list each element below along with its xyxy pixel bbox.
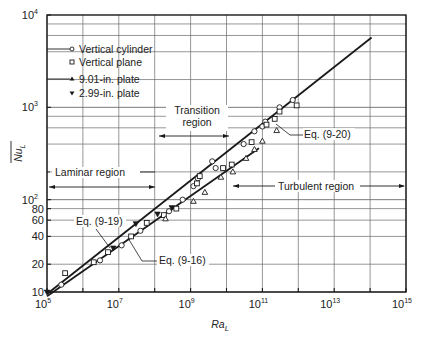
y-tick-label: 104	[22, 8, 38, 21]
svg-text:NuL: NuL	[12, 144, 27, 162]
data-point-square	[229, 162, 234, 167]
data-point-square	[106, 250, 111, 255]
y-tick-label: 103	[22, 100, 38, 113]
x-tick-label: 107	[107, 297, 123, 310]
transition-region-annotation: Transition region	[159, 104, 229, 138]
legend-label-9in-plate: 9.01-in. plate	[79, 73, 140, 85]
data-point-square	[174, 206, 179, 211]
data-point-square	[272, 116, 277, 121]
x-axis-ticks: 105107109101110131015	[35, 288, 412, 310]
x-tick-label: 109	[179, 297, 195, 310]
data-point-circle	[97, 258, 102, 263]
data-point-square	[277, 109, 282, 114]
x-axis-label: RaL	[211, 318, 229, 333]
svg-text:Eq. (9-19): Eq. (9-19)	[76, 215, 123, 227]
x-tick-label: 105	[35, 297, 51, 310]
x-tick-label: 1013	[320, 297, 340, 310]
data-point-square	[63, 271, 68, 276]
eq-9-16-label: Eq. (9-16)	[128, 238, 209, 266]
data-point-triangle-up	[202, 189, 208, 194]
data-point-circle	[180, 197, 185, 202]
nusselt-rayleigh-chart: 105107109101110131015 102040608010210310…	[0, 0, 431, 341]
data-point-circle	[210, 159, 215, 164]
legend-label-vertical-cylinder: Vertical cylinder	[79, 43, 153, 55]
legend-circle-icon	[70, 47, 74, 51]
legend-square-icon	[70, 60, 74, 64]
data-point-square	[129, 234, 134, 239]
y-tick-label: 40	[32, 230, 44, 242]
data-point-circle	[290, 97, 295, 102]
turbulent-region-annotation: Turbulent region	[233, 180, 405, 192]
data-point-square	[91, 260, 96, 265]
legend-label-vertical-plane: Vertical plane	[79, 56, 142, 68]
legend-triangle-up-icon	[70, 77, 75, 81]
data-point-circle	[119, 243, 124, 248]
eq-9-19-label: Eq. (9-19)	[74, 215, 126, 248]
svg-text:Eq. (9-20): Eq. (9-20)	[304, 128, 351, 140]
legend-label-3in-plate: 2.99-in. plate	[79, 87, 140, 99]
y-tick-label: 60	[32, 214, 44, 226]
data-point-circle	[241, 141, 246, 146]
data-point-circle	[138, 228, 143, 233]
y-axis-label: NuL	[11, 141, 27, 163]
data-point-square	[294, 103, 299, 108]
data-point-triangle-up	[260, 138, 266, 143]
y-tick-label: 10	[32, 286, 44, 298]
data-point-circle	[213, 165, 218, 170]
svg-text:Turbulent region: Turbulent region	[278, 180, 354, 192]
x-tick-label: 1015	[392, 297, 412, 310]
laminar-region-annotation: Laminar region	[47, 166, 155, 189]
data-point-circle	[59, 282, 64, 287]
data-point-circle	[252, 129, 257, 134]
svg-text:Laminar region: Laminar region	[55, 166, 125, 178]
svg-text:Transition: Transition	[174, 104, 220, 116]
data-point-square	[144, 221, 149, 226]
svg-text:region: region	[182, 116, 211, 128]
data-point-square	[195, 181, 200, 186]
data-point-square	[197, 174, 202, 179]
data-point-square	[264, 122, 269, 127]
data-point-triangle-up	[191, 198, 197, 203]
svg-text:Eq. (9-16): Eq. (9-16)	[159, 254, 206, 266]
data-point-triangle-down	[155, 212, 161, 217]
eq-9-20-label: Eq. (9-20)	[276, 124, 355, 140]
data-point-square	[221, 166, 226, 171]
x-tick-label: 1011	[249, 297, 269, 310]
data-point-triangle-up	[274, 128, 280, 133]
data-point-triangle-up	[230, 169, 236, 174]
y-tick-label: 20	[32, 258, 44, 270]
legend-triangle-down-icon	[70, 92, 75, 96]
data-point-triangle-up	[252, 146, 258, 151]
data-point-square	[249, 140, 254, 145]
